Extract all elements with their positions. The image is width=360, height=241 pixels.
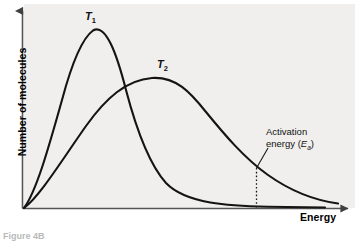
activation-energy-line2-suffix: )	[311, 138, 314, 149]
activation-energy-line2: energy (Ea)	[266, 138, 314, 154]
figure-caption: Figure 4B	[3, 231, 45, 241]
x-axis-title: Energy	[300, 211, 336, 223]
curve-label-t2-text: T	[157, 58, 164, 70]
y-axis-title: Number of molecules	[16, 17, 28, 187]
activation-energy-annotation: Activation energy (Ea)	[266, 126, 314, 154]
curve-label-t1-text: T	[85, 10, 92, 22]
curve-label-t2-subscript: 2	[164, 64, 168, 73]
curve-t1	[24, 29, 325, 208]
curve-label-t2: T2	[157, 58, 168, 73]
curve-label-t1: T1	[85, 10, 96, 25]
activation-energy-line2-prefix: energy (	[266, 138, 301, 149]
activation-energy-line1: Activation	[266, 126, 314, 138]
curve-label-t1-subscript: 1	[92, 16, 96, 25]
